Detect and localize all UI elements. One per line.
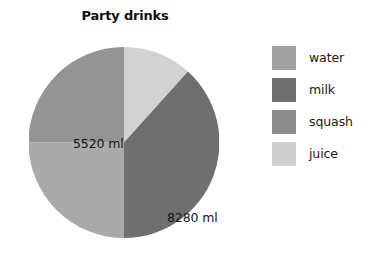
chart-legend: water milk squash juice: [272, 46, 369, 166]
legend-swatch-squash-icon: [272, 110, 296, 134]
legend-item-milk[interactable]: milk: [272, 78, 369, 102]
pie-label-milk: 8280 ml: [167, 210, 218, 225]
pie-chart: 5520 ml 8280 ml: [29, 47, 219, 238]
pie-slice-squash[interactable]: [29, 47, 124, 143]
pie-slice-water[interactable]: [29, 143, 124, 239]
legend-swatch-juice-icon: [272, 142, 296, 166]
legend-label-water: water: [309, 52, 344, 65]
legend-swatch-milk-icon: [272, 78, 296, 102]
legend-item-juice[interactable]: juice: [272, 142, 369, 166]
pie-chart-figure: Party drinks 5520 ml 8280 ml water milk …: [0, 0, 369, 263]
legend-swatch-water-icon: [272, 46, 296, 70]
chart-title: Party drinks: [0, 8, 250, 23]
legend-label-milk: milk: [309, 84, 335, 97]
pie-label-squash: 5520 ml: [73, 136, 124, 151]
legend-item-water[interactable]: water: [272, 46, 369, 70]
legend-label-squash: squash: [309, 116, 353, 129]
legend-label-juice: juice: [309, 148, 338, 161]
legend-item-squash[interactable]: squash: [272, 110, 369, 134]
